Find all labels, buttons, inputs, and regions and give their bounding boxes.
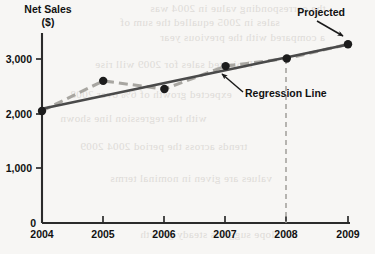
regression-line bbox=[42, 45, 348, 109]
data-point-2008 bbox=[283, 54, 291, 62]
y-axis-title-line1: Net Sales bbox=[24, 3, 71, 15]
y-tick-label-2000: 2,000 bbox=[6, 108, 32, 120]
y-axis-title-line2: ($) bbox=[42, 16, 55, 28]
chart-figure: the corresponding value in 2004 was sale… bbox=[0, 0, 375, 254]
y-tick-label-1000: 1,000 bbox=[6, 162, 32, 174]
x-tick-label-2007: 2007 bbox=[213, 228, 237, 240]
x-tick-label-2008: 2008 bbox=[274, 228, 298, 240]
data-point-2004 bbox=[38, 107, 46, 115]
data-point-2006 bbox=[160, 85, 168, 93]
annotation-regression-label: Regression Line bbox=[245, 87, 327, 99]
x-tick-label-2005: 2005 bbox=[91, 228, 115, 240]
annotation-projected-label: Projected bbox=[297, 6, 345, 18]
x-tick-label-2009: 2009 bbox=[336, 228, 360, 240]
data-point-2009 bbox=[344, 40, 352, 48]
y-tick-label-3000: 3,000 bbox=[6, 53, 32, 65]
data-point-2007 bbox=[221, 62, 229, 70]
data-point-2005 bbox=[99, 77, 107, 85]
net-sales-chart: Net Sales ($) 3,000 2,000 1,000 0 2004 2… bbox=[0, 0, 375, 254]
x-tick-label-2006: 2006 bbox=[152, 228, 176, 240]
annotation-projected-arrow bbox=[317, 21, 343, 36]
annotation-regression-arrow bbox=[222, 74, 243, 92]
x-tick-label-2004: 2004 bbox=[30, 228, 54, 240]
